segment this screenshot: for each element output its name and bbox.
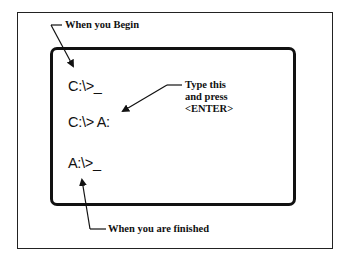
arrow-begin-icon	[51, 25, 73, 66]
arrow-instruction-icon	[123, 85, 182, 111]
arrow-finished-icon	[82, 180, 106, 229]
arrows-overlay	[0, 0, 351, 264]
